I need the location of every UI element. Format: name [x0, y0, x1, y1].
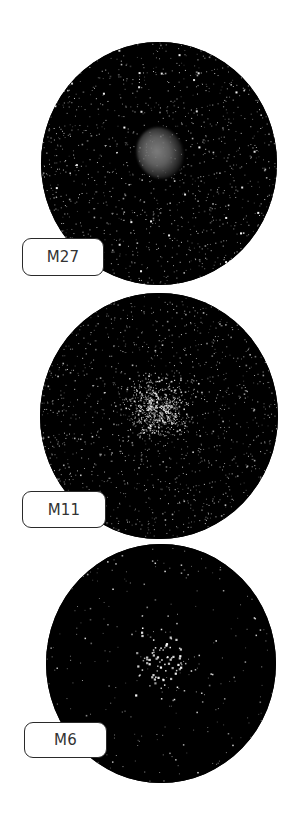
object-label-m6: M6 [24, 722, 107, 758]
panel-m6: M6 [0, 0, 296, 818]
